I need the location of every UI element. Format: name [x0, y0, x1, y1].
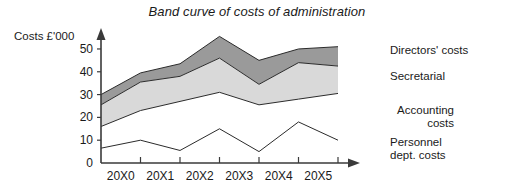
x-axis-label: 20X5 — [304, 169, 332, 183]
chart-bands — [101, 36, 338, 163]
legend-label-directors-costs: Directors' costs — [390, 44, 468, 57]
legend-label-secretarial: Secretarial — [390, 70, 445, 83]
y-tick-label: 30 — [80, 88, 94, 102]
x-axis-label: 20X1 — [146, 169, 174, 183]
y-tick-label: 20 — [80, 110, 94, 124]
y-tick-label: 40 — [80, 65, 94, 79]
y-axis-ticks: 01020304050 — [80, 42, 101, 170]
y-tick-label: 10 — [80, 133, 94, 147]
x-axis-label: 20X2 — [186, 169, 214, 183]
x-axis-label: 20X0 — [107, 169, 135, 183]
legend-label-accounting-costs: Accounting costs — [390, 104, 454, 130]
band-curve-chart: 01020304050 20X020X120X220X320X420X5 — [0, 0, 512, 192]
y-tick-label: 0 — [86, 156, 93, 170]
x-axis-label: 20X3 — [225, 169, 253, 183]
x-axis-label: 20X4 — [265, 169, 293, 183]
x-axis-labels: 20X020X120X220X320X420X5 — [107, 169, 333, 183]
chart-page: Band curve of costs of administration Co… — [0, 0, 512, 192]
legend-label-personnel-dept-costs: Personnel dept. costs — [390, 136, 446, 162]
y-tick-label: 50 — [80, 42, 94, 56]
